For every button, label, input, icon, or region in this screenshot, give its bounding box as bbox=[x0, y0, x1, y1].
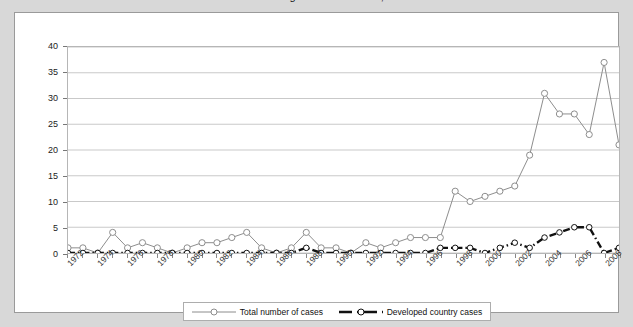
data-point-marker bbox=[601, 250, 607, 253]
legend-label-total: Total number of cases bbox=[240, 307, 323, 317]
data-point-marker bbox=[363, 250, 369, 253]
plot-svg bbox=[68, 47, 619, 253]
data-point-marker bbox=[303, 245, 309, 251]
legend-swatch-developed-line bbox=[339, 307, 383, 317]
data-point-marker bbox=[407, 234, 413, 240]
chart-figure: Number of cases registered worldwide, 19… bbox=[0, 0, 633, 327]
data-point-marker bbox=[437, 234, 443, 240]
data-point-marker bbox=[244, 229, 250, 235]
y-axis-tick-label: 5 bbox=[32, 223, 58, 233]
y-axis-tick-mark bbox=[63, 124, 67, 125]
series-line bbox=[68, 227, 619, 253]
data-point-marker bbox=[571, 111, 577, 117]
y-axis-tick-mark bbox=[63, 228, 67, 229]
y-axis-tick-label: 10 bbox=[32, 197, 58, 207]
data-point-marker bbox=[95, 250, 101, 253]
chart-title-strip: Number of cases registered worldwide, 19… bbox=[0, 0, 633, 12]
chart-legend: Total number of cases Developed country … bbox=[183, 302, 491, 321]
legend-swatch-total-line bbox=[192, 307, 236, 317]
data-point-marker bbox=[155, 250, 161, 253]
data-point-marker bbox=[556, 111, 562, 117]
data-point-marker bbox=[333, 250, 339, 253]
data-point-marker bbox=[497, 188, 503, 194]
data-point-marker bbox=[467, 198, 473, 204]
data-point-marker bbox=[393, 240, 399, 246]
x-axis: 1972197419761978198019821984198619881990… bbox=[67, 254, 620, 302]
data-point-marker bbox=[184, 250, 190, 253]
data-point-marker bbox=[586, 224, 592, 230]
series-line bbox=[68, 62, 619, 253]
data-point-marker bbox=[482, 193, 488, 199]
data-point-marker bbox=[274, 250, 280, 253]
data-point-marker bbox=[512, 240, 518, 246]
y-axis-tick-label: 40 bbox=[32, 41, 58, 51]
series-developed-country-cases bbox=[68, 224, 619, 253]
data-point-marker bbox=[110, 229, 116, 235]
data-point-marker bbox=[572, 224, 578, 230]
y-axis-tick-label: 35 bbox=[32, 67, 58, 77]
y-axis-tick-label: 30 bbox=[32, 93, 58, 103]
data-point-marker bbox=[541, 90, 547, 96]
data-point-marker bbox=[616, 142, 619, 148]
plot-area bbox=[67, 46, 620, 254]
y-axis-tick-mark bbox=[63, 150, 67, 151]
legend-item-total: Total number of cases bbox=[192, 307, 323, 317]
data-point-marker bbox=[512, 183, 518, 189]
data-point-marker bbox=[125, 250, 131, 253]
legend-item-developed: Developed country cases bbox=[339, 307, 482, 317]
data-point-marker bbox=[393, 250, 399, 253]
data-point-marker bbox=[482, 250, 488, 253]
y-axis-tick-label: 15 bbox=[32, 171, 58, 181]
data-point-marker bbox=[68, 250, 71, 253]
y-axis-tick-mark bbox=[63, 46, 67, 47]
data-point-marker bbox=[139, 240, 145, 246]
series-total-number-of-cases bbox=[68, 59, 619, 253]
chart-title: Number of cases registered worldwide, 19… bbox=[0, 0, 633, 2]
data-point-marker bbox=[601, 59, 607, 65]
data-point-marker bbox=[423, 250, 429, 253]
data-point-marker bbox=[422, 234, 428, 240]
y-axis-tick-mark bbox=[63, 98, 67, 99]
data-point-marker bbox=[229, 234, 235, 240]
gridlines bbox=[68, 47, 619, 253]
y-axis-tick-mark bbox=[63, 176, 67, 177]
data-point-marker bbox=[214, 250, 220, 253]
y-axis-tick-label: 0 bbox=[32, 249, 58, 259]
y-axis-tick-mark bbox=[63, 202, 67, 203]
y-axis-tick-label: 25 bbox=[32, 119, 58, 129]
data-point-marker bbox=[214, 240, 220, 246]
data-point-marker bbox=[557, 230, 563, 236]
data-point-marker bbox=[542, 235, 548, 241]
y-axis-tick-label: 20 bbox=[32, 145, 58, 155]
data-point-marker bbox=[303, 229, 309, 235]
data-point-marker bbox=[452, 245, 458, 251]
data-point-marker bbox=[199, 240, 205, 246]
data-point-marker bbox=[363, 240, 369, 246]
data-point-marker bbox=[244, 250, 250, 253]
legend-label-developed: Developed country cases bbox=[387, 307, 482, 317]
data-point-marker bbox=[452, 188, 458, 194]
data-point-marker bbox=[586, 131, 592, 137]
data-point-marker bbox=[527, 152, 533, 158]
y-axis-tick-mark bbox=[63, 72, 67, 73]
chart-card: 0510152025303540 19721974197619781980198… bbox=[14, 12, 619, 313]
